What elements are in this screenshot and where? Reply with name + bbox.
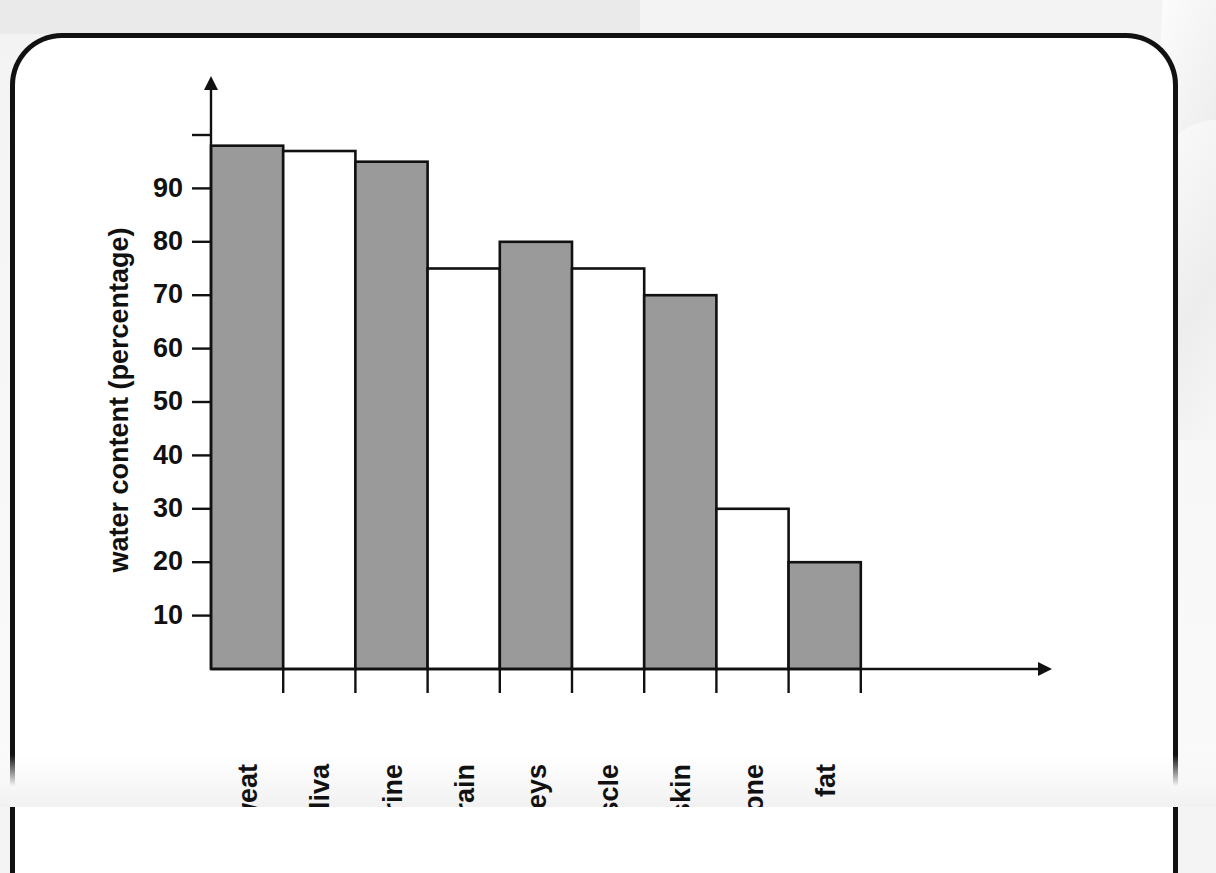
y-ticks-group: 102030405060708090 bbox=[153, 135, 211, 630]
y-axis-title: water content (percentage) bbox=[104, 227, 134, 573]
x-category-label: muscle bbox=[594, 764, 624, 807]
x-category-label: fat bbox=[811, 764, 841, 797]
bar bbox=[355, 162, 427, 669]
bar bbox=[572, 269, 644, 670]
bar bbox=[789, 562, 861, 669]
y-tick-label: 20 bbox=[153, 546, 183, 576]
y-tick-label: 10 bbox=[153, 600, 183, 630]
x-category-group: sweatsalivaurinebrainkidneysmuscleskinbo… bbox=[233, 669, 861, 807]
y-tick-label: 80 bbox=[153, 226, 183, 256]
y-tick-label: 50 bbox=[153, 386, 183, 416]
x-category-label: urine bbox=[378, 764, 408, 807]
x-category-label: kidneys bbox=[522, 764, 552, 807]
y-tick-label: 60 bbox=[153, 333, 183, 363]
bar bbox=[644, 295, 716, 669]
y-tick-label: 30 bbox=[153, 493, 183, 523]
x-category-label: brain bbox=[450, 764, 480, 807]
x-category-label: skin bbox=[666, 764, 696, 807]
y-tick-label: 40 bbox=[153, 440, 183, 470]
y-tick-label: 90 bbox=[153, 173, 183, 203]
bar bbox=[428, 269, 500, 670]
bar bbox=[211, 146, 283, 669]
bar bbox=[283, 151, 355, 669]
x-category-label: bone bbox=[739, 764, 769, 807]
y-tick-label: 70 bbox=[153, 279, 183, 309]
bars-group bbox=[211, 146, 861, 669]
bar bbox=[500, 242, 572, 669]
x-category-label: sweat bbox=[233, 764, 263, 807]
bar bbox=[716, 509, 788, 669]
x-category-label: saliva bbox=[305, 763, 335, 807]
